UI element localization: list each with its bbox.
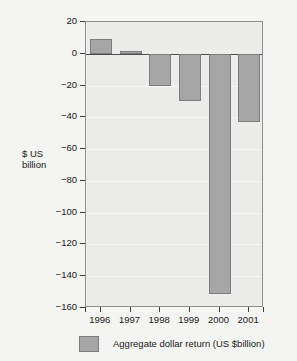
y-axis-tick-label: −160 <box>37 302 77 312</box>
zero-baseline <box>86 54 262 55</box>
x-axis-tick <box>130 307 131 312</box>
x-axis-tick <box>85 307 86 312</box>
gridline <box>86 86 262 87</box>
legend-label: Aggregate dollar return (US $billion) <box>113 337 265 350</box>
gridline <box>86 149 262 150</box>
gridline <box>86 181 262 182</box>
y-axis-tick <box>80 275 85 276</box>
y-axis-tick <box>80 85 85 86</box>
chart-legend: Aggregate dollar return (US $billion) <box>0 334 297 358</box>
bar-2001 <box>238 54 260 122</box>
x-axis-label-2001: 2001 <box>231 314 265 325</box>
y-axis-tick-label: −20 <box>37 80 77 90</box>
y-axis-tick-label: 0 <box>37 48 77 58</box>
x-axis-tick <box>248 307 249 312</box>
y-axis-tick-label: −100 <box>37 207 77 217</box>
y-axis-tick-label: −80 <box>37 175 77 185</box>
x-axis-tick <box>159 307 160 312</box>
bar-1996 <box>90 39 112 53</box>
y-axis-tick <box>80 21 85 22</box>
y-axis-tick-label: −40 <box>37 111 77 121</box>
gridline <box>86 244 262 245</box>
y-axis-tick <box>80 212 85 213</box>
y-axis-tick <box>80 243 85 244</box>
y-axis-tick-label: 20 <box>37 16 77 26</box>
bar-chart-figure: $ US billion 200−20−40−60−80−100−120−140… <box>0 0 297 361</box>
plot-area <box>85 21 263 307</box>
x-axis-tick <box>263 307 264 312</box>
legend-color-swatch <box>79 336 99 352</box>
y-axis-tick-label: −60 <box>37 143 77 153</box>
gridline <box>86 117 262 118</box>
y-axis-tick-label: −140 <box>37 270 77 280</box>
bar-1997 <box>120 51 142 54</box>
x-axis-tick <box>100 307 101 312</box>
x-axis-tick <box>189 307 190 312</box>
y-axis-tick <box>80 116 85 117</box>
y-axis-tick-label: −120 <box>37 238 77 248</box>
x-axis-tick <box>219 307 220 312</box>
bar-1999 <box>179 54 201 102</box>
y-axis-tick <box>80 148 85 149</box>
y-axis-tick <box>80 180 85 181</box>
gridline <box>86 213 262 214</box>
y-axis-tick <box>80 53 85 54</box>
gridline <box>86 276 262 277</box>
y-axis-tick-labels: 200−20−40−60−80−100−120−140−160 <box>31 0 77 361</box>
bar-2000 <box>209 54 231 294</box>
bar-1998 <box>149 54 171 86</box>
